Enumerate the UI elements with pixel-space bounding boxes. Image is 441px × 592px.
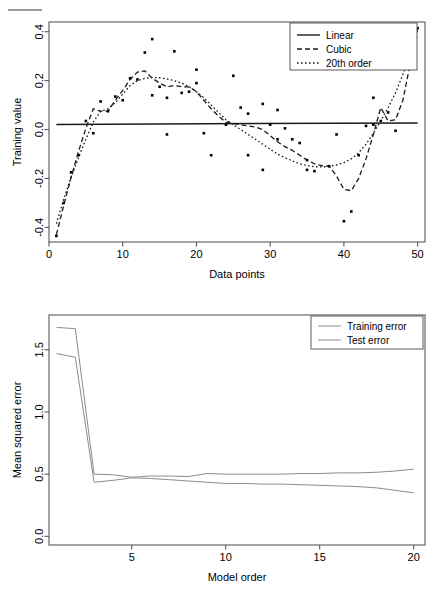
y-tick-label: -0.4 (33, 218, 45, 237)
data-point (372, 96, 375, 99)
y-tick-label: 0.0 (33, 122, 45, 137)
data-point (136, 78, 139, 81)
data-point (166, 96, 169, 99)
data-point (144, 51, 147, 54)
data-point (313, 170, 316, 173)
data-point (284, 127, 287, 130)
legend-label-20th-order: 20th order (326, 58, 372, 69)
mean-squared-error-chart: 51015200.00.51.01.5Model orderMean squar… (0, 290, 441, 592)
data-point (85, 120, 88, 123)
data-point (121, 99, 124, 102)
data-point (276, 109, 279, 112)
x-tick-label: 40 (338, 248, 350, 260)
data-point (379, 120, 382, 123)
y-tick-label: -0.2 (33, 169, 45, 188)
legend-label-test-error: Test error (347, 335, 390, 346)
data-point (372, 123, 375, 126)
data-point (291, 138, 294, 141)
data-point (262, 169, 265, 172)
legend-label-training-error: Training error (347, 321, 407, 332)
data-point (306, 159, 309, 162)
data-point (247, 154, 250, 157)
x-tick-label: 20 (190, 248, 202, 260)
data-point (151, 94, 154, 97)
data-point (328, 165, 331, 168)
x-tick-label: 20 (408, 551, 420, 563)
series-line-training-error (57, 327, 414, 477)
data-point (343, 220, 346, 223)
data-point (62, 202, 65, 205)
x-tick-label: 10 (220, 551, 232, 563)
data-point (262, 103, 265, 106)
figure-mean-squared-error: 51015200.00.51.01.5Model orderMean squar… (0, 290, 441, 592)
data-point (306, 169, 309, 172)
x-tick-label: 15 (314, 551, 326, 563)
x-tick-label: 50 (412, 248, 424, 260)
data-point (70, 171, 73, 174)
y-axis-title: Training value (11, 98, 23, 167)
x-tick-label: 5 (129, 551, 135, 563)
data-point (239, 106, 242, 109)
y-tick-label: 0.4 (33, 24, 45, 39)
data-point (298, 142, 301, 145)
data-point (247, 112, 250, 115)
y-tick-label: 0.2 (33, 73, 45, 88)
data-point (350, 210, 353, 213)
data-point (276, 138, 279, 141)
data-point (365, 125, 368, 128)
data-point (394, 129, 397, 132)
data-point (269, 123, 272, 126)
series-line-test-error (57, 354, 414, 493)
data-point (55, 235, 58, 238)
y-tick-label: 1.5 (33, 342, 45, 357)
data-point (357, 154, 360, 157)
training-value-chart: 01020304050-0.4-0.20.00.20.4Data pointsT… (0, 0, 441, 290)
data-point (151, 38, 154, 41)
data-point (180, 92, 183, 95)
figure-training-value: 01020304050-0.4-0.20.00.20.4Data pointsT… (0, 0, 441, 290)
legend-label-linear: Linear (326, 30, 354, 41)
data-point (99, 100, 102, 103)
data-point (232, 74, 235, 77)
y-axis-title: Mean squared error (11, 381, 23, 478)
legend-label-cubic: Cubic (326, 44, 352, 55)
x-tick-label: 10 (117, 248, 129, 260)
data-point (210, 154, 213, 157)
x-axis-title: Model order (208, 571, 267, 583)
x-tick-label: 0 (46, 248, 52, 260)
data-point (107, 110, 110, 113)
data-point (92, 132, 95, 135)
data-point (387, 111, 390, 114)
data-point (114, 95, 117, 98)
data-point (203, 132, 206, 135)
data-point (158, 85, 161, 88)
x-axis-title: Data points (209, 268, 265, 280)
data-point (77, 154, 80, 157)
y-tick-label: 0.0 (33, 529, 45, 544)
y-tick-label: 1.0 (33, 404, 45, 419)
data-point (195, 82, 198, 85)
data-point (335, 133, 338, 136)
data-point (225, 123, 228, 126)
data-point (166, 133, 169, 136)
y-tick-label: 0.5 (33, 466, 45, 481)
data-point (129, 77, 132, 80)
data-point (195, 68, 198, 71)
x-tick-label: 30 (264, 248, 276, 260)
data-point (173, 50, 176, 53)
data-point (188, 90, 191, 93)
